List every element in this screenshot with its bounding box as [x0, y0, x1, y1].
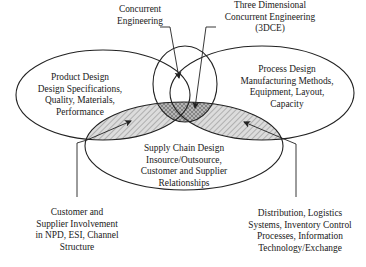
- label-line: Customer and Supplier: [120, 166, 248, 178]
- label-line: Performance: [20, 107, 140, 119]
- label-line: Equipment, Layout,: [225, 87, 349, 99]
- process-design-label: Process Design Manufacturing Methods, Eq…: [225, 64, 349, 110]
- label-line: Systems, Inventory Control: [236, 220, 364, 232]
- label-line: Concurrent Engineering: [210, 12, 330, 24]
- label-line: Technology/Exchange: [236, 243, 364, 255]
- distribution-label: Distribution, Logistics Systems, Invento…: [236, 208, 364, 254]
- concurrent-engineering-label: Concurrent Engineering: [85, 4, 195, 27]
- label-line: Customer and: [20, 207, 134, 219]
- label-line: in NPD, ESI, Channel: [20, 230, 134, 242]
- label-line: Distribution, Logistics: [236, 208, 364, 220]
- label-line: Supply Chain Design: [120, 143, 248, 155]
- customer-supplier-label: Customer and Supplier Involvement in NPD…: [20, 207, 134, 253]
- label-line: Structure: [20, 242, 134, 254]
- supply-chain-label: Supply Chain Design Insource/Outsource, …: [120, 143, 248, 189]
- label-line: Concurrent: [85, 4, 195, 16]
- label-line: Product Design: [20, 72, 140, 84]
- label-line: Engineering: [85, 16, 195, 28]
- label-line: Manufacturing Methods,: [225, 76, 349, 88]
- label-line: (3DCE): [210, 23, 330, 35]
- three-dce-arrow: [195, 27, 216, 108]
- label-line: Insource/Outsource,: [120, 155, 248, 167]
- three-dce-label: Three Dimensional Concurrent Engineering…: [210, 0, 330, 35]
- label-line: Quality, Materials,: [20, 95, 140, 107]
- product-design-label: Product Design Design Specifications, Qu…: [20, 72, 140, 118]
- label-line: Design Specifications,: [20, 84, 140, 96]
- label-line: Processes, Information: [236, 231, 364, 243]
- label-line: Capacity: [225, 99, 349, 111]
- label-line: Supplier Involvement: [20, 219, 134, 231]
- label-line: Relationships: [120, 178, 248, 190]
- label-line: Three Dimensional: [210, 0, 330, 12]
- label-line: Process Design: [225, 64, 349, 76]
